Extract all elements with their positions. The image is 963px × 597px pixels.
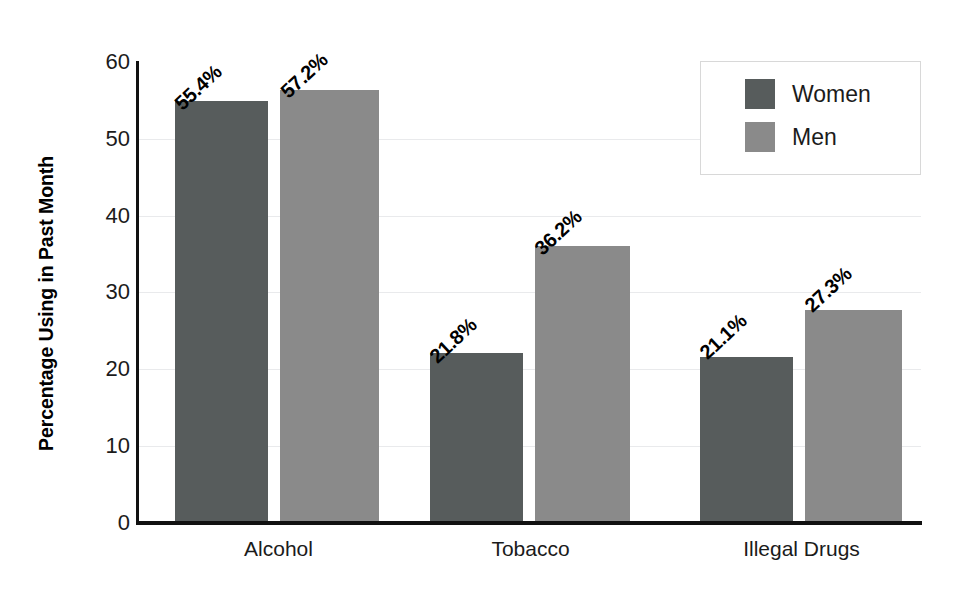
bar-men-illegal-drugs[interactable]: [805, 310, 902, 523]
y-tick-label: 0: [70, 512, 130, 534]
y-tick-label: 40: [70, 205, 130, 227]
x-category-label-tobacco: Tobacco: [430, 537, 631, 561]
x-category-label-alcohol: Alcohol: [178, 537, 379, 561]
y-tick-label: 30: [70, 281, 130, 303]
bar-women-alcohol[interactable]: [175, 101, 268, 523]
bar-men-tobacco[interactable]: [535, 246, 630, 523]
y-axis-tick-labels: 60 50 40 30 20 10 0: [58, 0, 130, 597]
legend-item-women[interactable]: Women: [745, 79, 871, 109]
bar-women-illegal-drugs[interactable]: [700, 357, 793, 523]
legend: Women Men: [700, 61, 921, 175]
y-tick-label: 60: [70, 51, 130, 73]
bar-chart: Percentage Using in Past Month 60 50 40 …: [0, 0, 963, 597]
legend-swatch-men: [745, 122, 775, 152]
y-tick-label: 50: [70, 128, 130, 150]
y-axis-title: Percentage Using in Past Month: [35, 154, 58, 454]
x-axis-line: [136, 521, 922, 525]
bar-women-tobacco[interactable]: [430, 353, 523, 523]
y-axis-line: [136, 61, 139, 525]
y-tick-label: 10: [70, 435, 130, 457]
y-tick-label: 20: [70, 358, 130, 380]
legend-item-men[interactable]: Men: [745, 122, 837, 152]
bar-men-alcohol[interactable]: [280, 90, 379, 523]
legend-label-women: Women: [792, 83, 871, 106]
legend-swatch-women: [745, 79, 775, 109]
legend-label-men: Men: [792, 126, 837, 149]
x-category-label-illegal-drugs: Illegal Drugs: [700, 537, 903, 561]
